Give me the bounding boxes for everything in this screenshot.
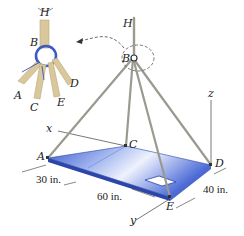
rope-H xyxy=(40,20,49,48)
point-label-E: E xyxy=(165,200,174,213)
point-label-C: C xyxy=(129,138,138,151)
cable-BC xyxy=(126,58,133,146)
inset-label-C: C xyxy=(30,101,39,114)
arrow-icon xyxy=(76,38,83,44)
inset-label-E: E xyxy=(56,96,65,109)
z-axis: z xyxy=(207,87,214,165)
dimension-30: 30 in. xyxy=(36,173,61,185)
inset-label-B: B xyxy=(29,36,38,49)
inset-label-D: D xyxy=(69,77,79,90)
hanging-plate-diagram: z H B A C D E x y 30 in. 60 in. 40 in. xyxy=(0,0,244,236)
dimension-60: 60 in. xyxy=(97,190,122,202)
cable-BD xyxy=(133,58,211,165)
plate xyxy=(48,146,211,201)
inset-detail xyxy=(18,8,73,99)
point-label-H: H xyxy=(122,17,133,30)
dimension-40: 40 in. xyxy=(203,183,228,195)
detail-leader xyxy=(80,37,124,48)
point-label-B: B xyxy=(121,52,130,65)
point-label-D: D xyxy=(214,157,224,170)
diagram-canvas: z H B A C D E x y 30 in. 60 in. 40 in. xyxy=(0,0,244,236)
point-label-A: A xyxy=(36,150,45,163)
axis-label-y: y xyxy=(129,214,137,227)
axis-label-z: z xyxy=(207,87,214,100)
axis-label-x: x xyxy=(46,122,53,135)
inset-label-A: A xyxy=(13,89,22,102)
inset-label-H: H xyxy=(39,6,50,19)
y-axis: y xyxy=(129,200,168,227)
